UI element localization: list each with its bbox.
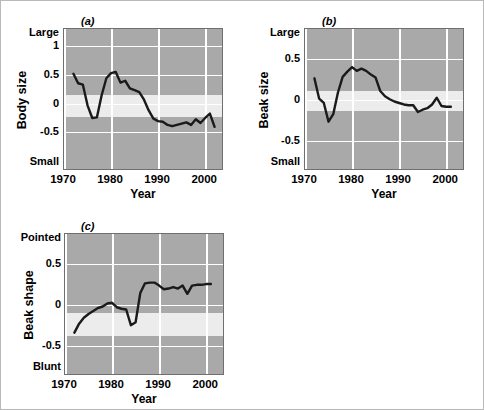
panel-a-xtick-1970: 1970 (50, 173, 76, 185)
panel-a: (a) Large Small 1 0.5 0 -0.5 Body size 1… (1, 1, 243, 206)
panel-c-label: (c) (81, 220, 94, 232)
panel-a-y-bottom-label: Small (9, 155, 59, 167)
panel-b-y-axis-title: Beak size (257, 55, 271, 145)
panel-b-series-line (305, 29, 464, 170)
panel-a-y-axis-title: Body size (15, 55, 29, 145)
panel-c: (c) Pointed Blunt 0.5 0 -0.5 Beak shape … (1, 206, 243, 410)
panel-c-xtick-2000: 2000 (192, 378, 218, 390)
panel-a-plot-area (63, 28, 223, 170)
panel-b-y-top-label: Large (250, 26, 300, 38)
panel-a-xtick-2000: 2000 (191, 173, 217, 185)
panel-b-x-axis-title: Year (304, 187, 464, 201)
panel-a-xtick-1990: 1990 (144, 173, 170, 185)
panel-a-series-line (64, 29, 223, 170)
panel-b-y-bottom-label: Small (250, 155, 300, 167)
panel-c-y-axis-title: Beak shape (22, 255, 36, 355)
panel-b-xtick-1970: 1970 (291, 173, 317, 185)
panel-c-y-bottom-label: Blunt (1, 360, 61, 372)
panel-a-xtick-1980: 1980 (97, 173, 123, 185)
panel-c-x-axis-title: Year (64, 392, 224, 406)
panel-b-xtick-1990: 1990 (385, 173, 411, 185)
panel-c-xtick-1970: 1970 (51, 378, 77, 390)
panel-b-xtick-1980: 1980 (338, 173, 364, 185)
panel-a-x-axis-title: Year (63, 187, 223, 201)
panel-c-plot-area (64, 233, 224, 375)
panel-a-ytick-1: 1 (9, 39, 59, 51)
panel-c-y-top-label: Pointed (1, 231, 61, 243)
panel-a-label: (a) (81, 15, 94, 27)
panel-b-plot-area (304, 28, 464, 170)
panel-b-xtick-2000: 2000 (432, 173, 458, 185)
figure-container: (a) Large Small 1 0.5 0 -0.5 Body size 1… (0, 0, 484, 410)
panel-b-label: (b) (322, 15, 336, 27)
panel-b: (b) Large Small 0.5 0 -0.5 Beak size 197… (243, 1, 484, 206)
panel-c-xtick-1990: 1990 (145, 378, 171, 390)
panel-c-xtick-1980: 1980 (98, 378, 124, 390)
panel-c-series-line (65, 234, 224, 375)
panel-a-y-top-label: Large (9, 26, 59, 38)
